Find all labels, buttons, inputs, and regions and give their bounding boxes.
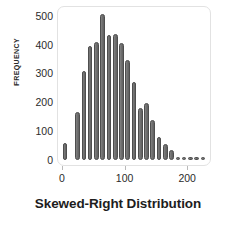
histogram-bar — [144, 103, 149, 160]
histogram-bar — [75, 112, 80, 160]
histogram-bar — [176, 157, 181, 160]
x-tick-label: 0 — [45, 172, 79, 184]
histogram-bar — [169, 150, 174, 160]
y-tick-label: 200 — [22, 97, 53, 107]
y-axis-tick-labels: 0100200300400500 — [22, 0, 53, 180]
histogram-bar — [163, 144, 168, 160]
histogram-bars — [57, 6, 211, 166]
histogram-bar — [125, 60, 130, 160]
histogram-bar — [150, 120, 155, 160]
histogram-bar — [88, 46, 93, 160]
x-tick-mark — [187, 166, 188, 170]
histogram-bar — [63, 143, 68, 160]
x-tick-mark — [125, 166, 126, 170]
histogram-bar — [194, 157, 199, 160]
histogram-bar — [94, 42, 99, 160]
histogram-bar — [132, 82, 137, 160]
y-tick-label: 100 — [22, 126, 53, 136]
y-tick-label: 400 — [22, 40, 53, 50]
histogram-bar — [82, 71, 87, 160]
histogram-bar — [138, 108, 143, 161]
histogram-bar — [113, 34, 118, 160]
y-axis-label: Frequency — [8, 17, 22, 107]
x-tick-mark — [62, 166, 63, 170]
histogram-bar — [188, 157, 193, 160]
x-axis-tick-labels: 0100200 — [0, 172, 236, 188]
x-tick-label: 200 — [170, 172, 204, 184]
y-tick-label: 500 — [22, 11, 53, 21]
x-axis-label: Skewed-Right Distribution — [0, 196, 236, 211]
histogram-bar — [201, 157, 206, 160]
histogram-bar — [107, 35, 112, 160]
x-tick-label: 100 — [108, 172, 142, 184]
histogram-bar — [100, 14, 105, 160]
histogram-bar — [119, 43, 124, 160]
histogram-bar — [157, 137, 162, 160]
y-tick-label: 300 — [22, 68, 53, 78]
histogram-figure: Frequency 0100200300400500 0100200 Skewe… — [0, 0, 236, 226]
y-tick-label: 0 — [22, 155, 53, 165]
histogram-bar — [182, 157, 187, 160]
